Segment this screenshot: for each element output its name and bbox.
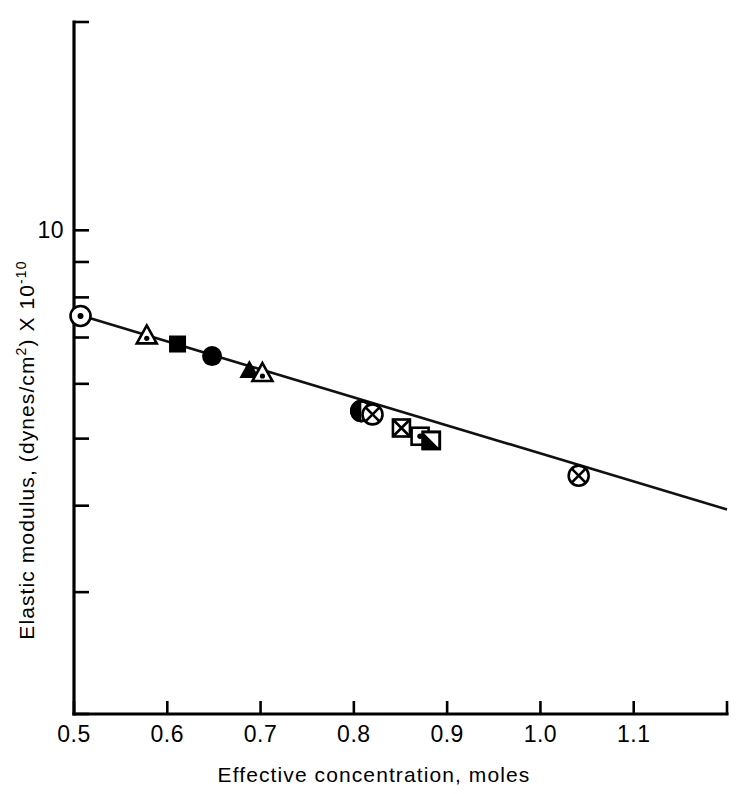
x-tick-label: 0.7 bbox=[244, 721, 277, 747]
data-point-circle-x bbox=[363, 404, 383, 424]
data-point-square-half bbox=[423, 432, 440, 449]
x-axis-title: Effective concentration, moles bbox=[218, 763, 531, 786]
data-point-circle-x bbox=[569, 466, 589, 486]
x-tick-label: 1.1 bbox=[617, 721, 650, 747]
x-tick-label: 1.0 bbox=[524, 721, 557, 747]
y-axis-title-exponent-ten: -10 bbox=[13, 260, 29, 284]
x-tick-label: 0.8 bbox=[337, 721, 370, 747]
y-axis-title-exponent-cm: 2 bbox=[13, 347, 29, 356]
y-axis-title: Elastic modulus, (dynes/cm2) X 10-10 bbox=[13, 260, 38, 639]
y-tick-label: 10 bbox=[37, 217, 64, 243]
tick-marks bbox=[74, 22, 727, 714]
data-point-circle-filled bbox=[202, 346, 222, 366]
data-point-square-x bbox=[393, 419, 410, 436]
scatter-plot: 0.50.60.70.80.91.01.1 10 Effective conce… bbox=[0, 0, 748, 794]
y-axis-title-mid: ) X 10 bbox=[15, 284, 38, 347]
data-point-square-filled bbox=[169, 336, 186, 353]
y-tick-labels: 10 bbox=[37, 217, 64, 243]
axes bbox=[74, 22, 727, 714]
data-series bbox=[71, 306, 727, 509]
x-tick-label: 0.6 bbox=[151, 721, 184, 747]
x-tick-labels: 0.50.60.70.80.91.01.1 bbox=[57, 721, 650, 747]
figure-container: 0.50.60.70.80.91.01.1 10 Effective conce… bbox=[0, 0, 748, 794]
y-axis-title-main: Elastic modulus, (dynes/cm bbox=[15, 355, 38, 639]
data-point-circle-dot bbox=[71, 306, 91, 326]
svg-text:Elastic modulus, (dynes/cm2) X: Elastic modulus, (dynes/cm2) X 10-10 bbox=[13, 260, 38, 639]
x-tick-label: 0.9 bbox=[430, 721, 463, 747]
x-tick-label: 0.5 bbox=[57, 721, 90, 747]
